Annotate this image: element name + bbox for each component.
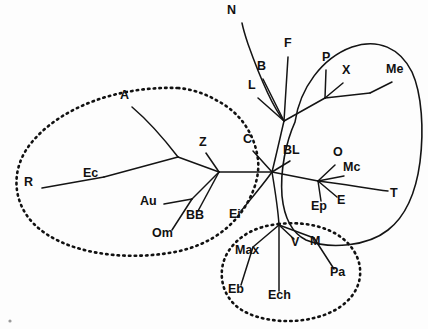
taxon-label-E: E xyxy=(337,194,345,207)
edge-aec-to-A xyxy=(132,107,178,157)
taxon-label-BL: BL xyxy=(283,144,300,157)
taxon-label-A: A xyxy=(120,89,129,102)
artifact-speck xyxy=(8,319,11,322)
taxon-label-Z: Z xyxy=(199,136,207,149)
taxon-label-V: V xyxy=(291,236,299,249)
taxon-label-Ep: Ep xyxy=(311,200,327,213)
edge-upper-to-B xyxy=(263,79,284,121)
edge-z-to-BB xyxy=(198,172,219,211)
taxon-label-M: M xyxy=(310,235,320,248)
taxon-label-BB: BB xyxy=(186,209,204,222)
edge-px-to-bend xyxy=(325,93,370,98)
edge-center-to-right xyxy=(272,172,318,181)
taxon-label-R: R xyxy=(24,176,33,189)
taxon-label-T: T xyxy=(390,187,398,200)
taxon-label-N: N xyxy=(227,4,236,17)
edge-px-to-P xyxy=(325,70,326,98)
edge-upper-to-L xyxy=(258,98,284,121)
taxon-label-Ech: Ech xyxy=(268,289,291,302)
taxon-label-X: X xyxy=(342,64,350,77)
edge-center-to-C xyxy=(253,151,272,172)
taxon-label-Om: Om xyxy=(152,227,173,240)
edge-z-to-auom xyxy=(192,172,219,199)
edge-upper-to-F xyxy=(284,57,288,121)
edge-bend-to-Me xyxy=(370,82,392,93)
taxon-label-Ec: Ec xyxy=(83,167,98,180)
edge-auom-to-Au xyxy=(164,199,192,204)
taxon-label-Mc: Mc xyxy=(343,161,360,174)
edge-z-to-aec xyxy=(178,157,219,172)
taxon-label-P: P xyxy=(322,51,330,64)
taxon-label-Au: Au xyxy=(140,195,157,208)
edge-upper-to-px xyxy=(284,98,325,121)
taxon-label-Me: Me xyxy=(386,63,403,76)
taxon-label-Ei: Ei xyxy=(229,208,241,221)
taxon-label-L: L xyxy=(248,79,256,92)
edge-center-to-Ei xyxy=(241,172,272,211)
edge-center-to-bottom xyxy=(272,172,279,225)
taxon-label-O: O xyxy=(333,146,343,159)
edge-aec-to-Ec xyxy=(104,157,178,177)
taxon-label-Pa: Pa xyxy=(330,266,345,279)
taxon-label-Max: Max xyxy=(235,244,259,257)
taxon-label-F: F xyxy=(284,37,292,50)
taxon-label-Eb: Eb xyxy=(228,283,244,296)
taxon-label-B: B xyxy=(257,60,266,73)
tree-drawing-canvas xyxy=(0,0,428,329)
phylogenetic-tree-figure: N F B L P X Me O Mc T E Ep BL C Z A Ec R… xyxy=(0,0,428,329)
taxon-label-C: C xyxy=(243,133,252,146)
